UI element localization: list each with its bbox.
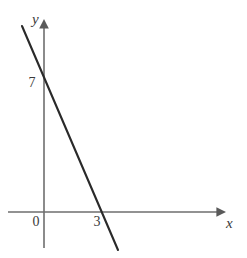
cartesian-plot-svg: y x 7 0 3	[0, 0, 247, 258]
y-axis-label: y	[30, 11, 39, 27]
y-intercept-label: 7	[29, 75, 36, 90]
origin-label: 0	[33, 214, 40, 229]
graph-figure: y x 7 0 3	[0, 0, 247, 258]
x-axis-label: x	[225, 215, 233, 231]
x-intercept-label: 3	[94, 214, 101, 229]
